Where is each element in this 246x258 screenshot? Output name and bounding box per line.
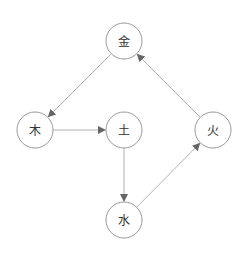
node-water[interactable]: 水 bbox=[106, 202, 142, 238]
node-earth[interactable]: 土 bbox=[106, 112, 142, 148]
node-wood-label: 木 bbox=[29, 124, 41, 138]
edge-water-to-fire bbox=[137, 144, 200, 208]
edge-fire-to-metal bbox=[137, 54, 200, 117]
node-metal-label: 金 bbox=[118, 34, 130, 49]
edge-metal-to-wood bbox=[48, 54, 111, 117]
node-wood[interactable]: 木 bbox=[17, 112, 53, 148]
node-fire[interactable]: 火 bbox=[195, 112, 231, 148]
node-water-label: 水 bbox=[118, 214, 130, 228]
node-fire-label: 火 bbox=[207, 124, 219, 138]
nodes: 金 木 土 火 水 bbox=[17, 23, 231, 238]
node-metal[interactable]: 金 bbox=[106, 23, 142, 59]
node-earth-label: 土 bbox=[118, 124, 130, 138]
five-elements-diagram: 金 木 土 火 水 bbox=[0, 0, 246, 258]
